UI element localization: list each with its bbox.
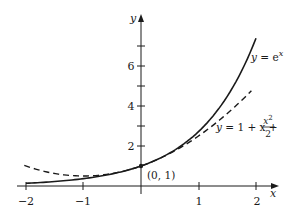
- x-tick-label: 1: [196, 195, 203, 208]
- y-axis-arrow-icon: [138, 14, 144, 22]
- x-tick-label: −2: [18, 195, 34, 208]
- chart: −2 −1 1 2 x 2 4 6 y (0, 1) y = ex y = 1 …: [0, 0, 294, 216]
- exp-label-eq: = e: [257, 51, 279, 63]
- y-tick-label: 2: [128, 140, 135, 153]
- x-tick-label: 2: [254, 195, 261, 208]
- y-tick-label: 4: [128, 100, 135, 113]
- x-axis: −2 −1 1 2 x: [17, 182, 279, 208]
- taylor-polynomial-curve: [24, 91, 251, 176]
- x-axis-label: x: [270, 187, 277, 200]
- point-label: (0, 1): [147, 169, 175, 181]
- y-tick-label: 6: [128, 60, 135, 73]
- y-axis-label: y: [129, 12, 137, 25]
- exp-curve-label: y = ex: [250, 49, 284, 63]
- poly-label-denominator: 2: [265, 129, 271, 139]
- x-tick-label: −1: [75, 195, 91, 208]
- polynomial-curve-label: y = 1 + x + x2 2: [215, 114, 278, 139]
- exp-label-sup: x: [279, 49, 284, 58]
- svg-text:y = ex: y = ex: [250, 49, 284, 63]
- intersection-point: [139, 164, 143, 168]
